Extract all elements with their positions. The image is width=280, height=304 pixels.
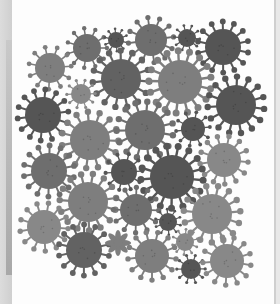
virus-particle (59, 109, 122, 172)
virus-particle (57, 171, 120, 234)
virus-particle (175, 254, 207, 284)
virus-particle (111, 185, 162, 236)
virus-illustration (0, 0, 280, 304)
virus-particle (90, 47, 153, 110)
virus-particle (200, 235, 253, 288)
virus-particle (205, 73, 268, 136)
virus-particle (195, 19, 251, 76)
virus-particle (105, 230, 131, 256)
virus-particle (125, 230, 178, 283)
virus-particle (56, 222, 112, 279)
